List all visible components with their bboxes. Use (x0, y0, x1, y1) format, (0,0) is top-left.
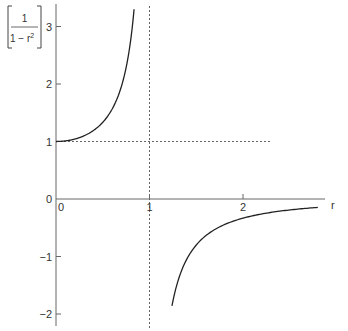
ylabel-numerator: 1 (22, 13, 28, 24)
ticks: 3210−1−2012 (39, 21, 246, 321)
y-tick-label: 3 (46, 21, 52, 33)
y-tick-label: 2 (46, 78, 52, 90)
x-tick-label: 2 (240, 201, 246, 213)
y-axis-label: 1 1 − r2 (8, 6, 41, 48)
y-tick-label: 1 (46, 136, 52, 148)
y-tick-label: −1 (39, 251, 52, 263)
curves (56, 9, 318, 306)
curve-branch-left (56, 9, 134, 141)
asymptotes (56, 6, 271, 328)
x-tick-label: 0 (58, 201, 64, 213)
axes (56, 4, 325, 326)
y-tick-label: 0 (46, 193, 52, 205)
x-axis-label: r (331, 199, 335, 211)
curve-branch-right (172, 207, 318, 306)
x-tick-label: 1 (146, 201, 152, 213)
y-tick-label: −2 (39, 308, 52, 320)
function-plot: 1 1 − r2 3210−1−2012 r (0, 0, 348, 331)
ylabel-denominator: 1 − r2 (10, 32, 34, 44)
